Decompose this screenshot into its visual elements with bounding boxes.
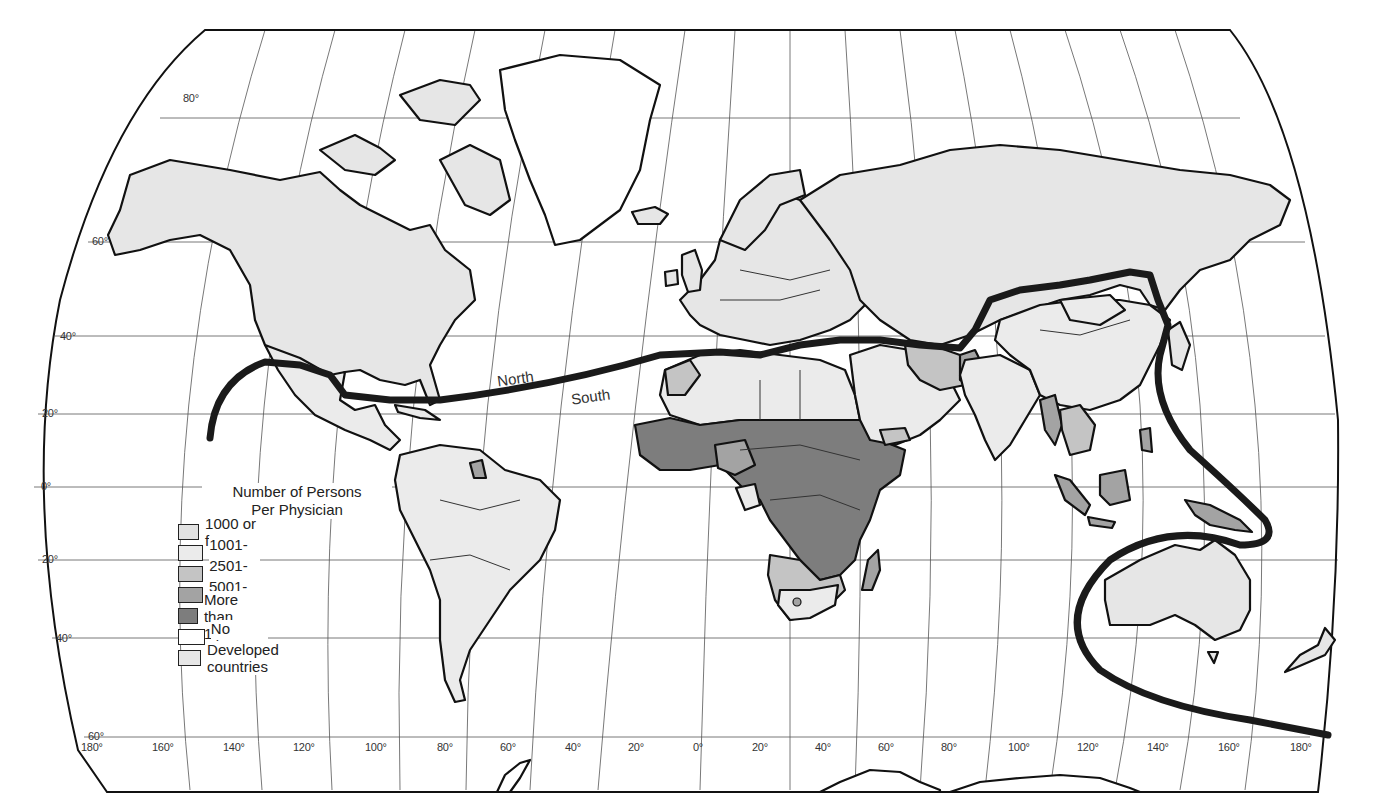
legend-swatch xyxy=(178,608,198,624)
canadian-archipelago xyxy=(320,135,395,175)
japan xyxy=(1168,322,1190,370)
great-britain xyxy=(682,250,702,292)
legend-swatch xyxy=(178,587,203,603)
baffin-island xyxy=(440,145,510,215)
lon-label-0: 0° xyxy=(693,741,703,753)
lat-label-80n: 80° xyxy=(183,92,199,104)
legend-swatch xyxy=(178,545,203,561)
legend-item-developed-countries: Developed countries xyxy=(178,649,294,667)
antarctic-peninsula xyxy=(497,760,530,792)
legend-label: Developed countries xyxy=(207,641,294,675)
lon-label-40w: 40° xyxy=(565,741,581,753)
lon-label-180e: 180° xyxy=(1290,741,1312,753)
yemen xyxy=(880,428,910,445)
new-guinea xyxy=(1185,500,1252,532)
lon-label-80w: 80° xyxy=(437,741,453,753)
iceland xyxy=(632,207,668,224)
lat-label-20s: 20° xyxy=(42,553,58,565)
australia xyxy=(1105,540,1250,640)
cuba xyxy=(395,405,440,420)
lon-label-160e: 160° xyxy=(1218,741,1240,753)
lon-label-120e: 120° xyxy=(1077,741,1099,753)
ireland xyxy=(665,270,678,286)
lon-label-20e: 20° xyxy=(752,741,768,753)
gabon-congo xyxy=(736,484,760,510)
lon-label-100w: 100° xyxy=(365,741,387,753)
lon-label-160w: 160° xyxy=(152,741,174,753)
south-america xyxy=(395,445,560,702)
lat-label-40s: 40° xyxy=(56,632,72,644)
lon-label-180w: 180° xyxy=(81,741,103,753)
lat-label-60n: 60° xyxy=(92,235,108,247)
legend-title-line1: Number of Persons xyxy=(202,483,392,501)
legend-swatch xyxy=(178,650,201,666)
madagascar xyxy=(862,550,880,590)
lon-label-40e: 40° xyxy=(815,741,831,753)
borneo xyxy=(1100,470,1130,505)
antarctica-1 xyxy=(820,770,940,792)
lon-label-140w: 140° xyxy=(223,741,245,753)
world-map xyxy=(0,0,1383,812)
lon-label-20w: 20° xyxy=(628,741,644,753)
guyana xyxy=(470,460,486,478)
south-africa xyxy=(778,585,838,620)
lon-label-60w: 60° xyxy=(500,741,516,753)
lon-label-80e: 80° xyxy=(941,741,957,753)
tasmania xyxy=(1208,652,1218,663)
legend-swatch xyxy=(178,629,205,645)
lon-label-120w: 120° xyxy=(293,741,315,753)
india xyxy=(960,355,1040,460)
legend-swatch xyxy=(178,566,203,582)
lat-label-0: 0° xyxy=(41,480,51,492)
legend-swatch xyxy=(178,524,199,540)
indochina xyxy=(1060,405,1095,455)
philippines xyxy=(1140,428,1152,452)
lon-label-100e: 100° xyxy=(1008,741,1030,753)
new-zealand xyxy=(1285,628,1335,672)
antarctica-2 xyxy=(950,775,1140,792)
legend-title: Number of Persons Per Physician xyxy=(202,483,392,519)
lon-label-140e: 140° xyxy=(1147,741,1169,753)
java xyxy=(1088,517,1115,528)
lat-label-40n: 40° xyxy=(60,330,76,342)
lesotho xyxy=(793,598,801,606)
lon-label-60e: 60° xyxy=(878,741,894,753)
lat-label-20n: 20° xyxy=(42,407,58,419)
